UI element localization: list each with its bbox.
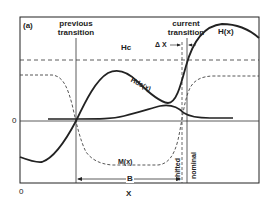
arrowhead-right-icon [177,44,181,47]
x-origin-label: 0 [19,188,23,196]
previous-label-line2: transition [56,29,96,37]
previous-label-line1: previous [56,20,96,28]
y-zero-label: 0 [12,117,16,125]
previous-transition-label: previous transition [56,20,96,37]
nominal-label: nominal [190,152,198,179]
arrowhead-left-icon [77,177,82,181]
panel-label: (a) [23,22,33,30]
x-axis-label: X [126,190,131,198]
arrowhead-left-icon [188,44,192,47]
head-field-curve [20,24,259,162]
current-label-line2: transition [166,29,206,37]
plot-frame [20,17,259,183]
write-field-diagram [0,0,277,205]
shifted-label: shifted [174,158,182,181]
h-curve-label: H(x) [218,28,234,36]
current-label-line1: current [166,20,206,28]
current-transition-label: current transition [166,20,206,37]
delta-x-label: Δ X [155,41,167,49]
bit-length-label: B [126,175,134,183]
hc-label: Hc [121,44,131,52]
m-curve-label: M(x) [118,158,132,166]
